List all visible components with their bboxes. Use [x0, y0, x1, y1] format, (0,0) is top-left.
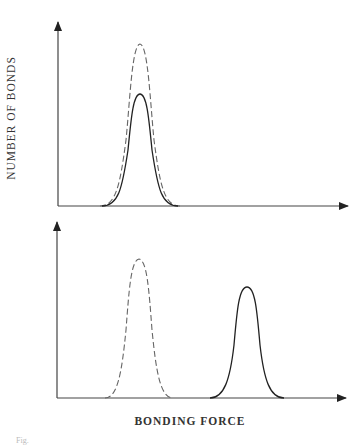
bottom-dashed-curve — [105, 259, 173, 398]
figure-tag: Fig. — [16, 436, 29, 445]
bottom-solid-curve — [210, 287, 284, 398]
bottom-panel — [57, 222, 346, 398]
x-axis-label: BONDING FORCE — [120, 415, 260, 427]
y-axis-label: NUMBER OF BONDS — [5, 28, 21, 208]
top-panel — [58, 22, 348, 206]
top-dashed-curve — [100, 44, 180, 206]
top-solid-curve — [102, 94, 178, 206]
